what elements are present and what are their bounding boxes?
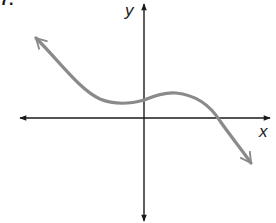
- coordinate-plane: [0, 0, 276, 223]
- x-axis-label: x: [259, 122, 268, 142]
- graph-figure: 7. y x: [0, 0, 276, 223]
- problem-number: 7.: [0, 0, 13, 9]
- y-axis-label: y: [125, 1, 134, 21]
